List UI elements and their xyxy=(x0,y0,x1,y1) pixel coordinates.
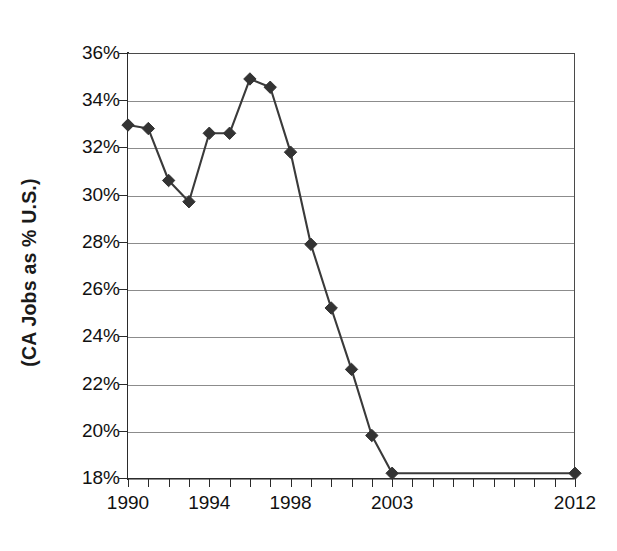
x-axis-tick xyxy=(534,478,535,487)
y-axis-tick xyxy=(119,242,128,243)
x-axis-tick xyxy=(473,478,474,487)
x-axis-tick xyxy=(372,478,373,487)
x-axis-tick-label: 2003 xyxy=(371,492,413,514)
y-axis-tick-label: 36% xyxy=(82,42,120,64)
y-axis-tick-label: 30% xyxy=(82,184,120,206)
x-axis-tick xyxy=(453,478,454,487)
y-axis-tick xyxy=(119,289,128,290)
x-axis-tick-label: 1990 xyxy=(107,492,149,514)
x-axis-tick xyxy=(331,478,332,487)
plot-area xyxy=(128,53,575,478)
gridline xyxy=(128,101,574,102)
y-axis-tick-label: 20% xyxy=(82,420,120,442)
x-axis-tick xyxy=(514,478,515,487)
y-axis-tick xyxy=(119,384,128,385)
x-axis-tick xyxy=(575,478,576,487)
x-axis-tick xyxy=(291,478,292,487)
x-axis-tick xyxy=(148,478,149,487)
y-axis-tick xyxy=(119,147,128,148)
y-axis-tick-label: 18% xyxy=(82,467,120,489)
x-axis-tick xyxy=(270,478,271,487)
y-axis-tick-label: 34% xyxy=(82,89,120,111)
x-axis-tick xyxy=(412,478,413,487)
y-axis-tick-label: 24% xyxy=(82,325,120,347)
y-axis-tick-label-group: 18%20%22%24%26%28%30%32%34%36% xyxy=(60,0,120,551)
y-axis-tick xyxy=(119,431,128,432)
x-axis-tick xyxy=(209,478,210,487)
y-axis-tick xyxy=(119,478,128,479)
x-axis-tick xyxy=(392,478,393,487)
y-axis-tick xyxy=(119,336,128,337)
y-axis-tick-label: 26% xyxy=(82,278,120,300)
x-axis-tick xyxy=(230,478,231,487)
y-axis-tick-label: 32% xyxy=(82,136,120,158)
gridline xyxy=(128,243,574,244)
x-axis-tick-label: 2012 xyxy=(554,492,596,514)
gridline xyxy=(128,385,574,386)
x-axis-tick-label: 1998 xyxy=(269,492,311,514)
y-axis-tick xyxy=(119,195,128,196)
x-axis-tick xyxy=(189,478,190,487)
chart-page: (CA Jobs as % U.S.) 18%20%22%24%26%28%30… xyxy=(0,0,617,551)
x-axis-tick xyxy=(433,478,434,487)
x-axis-tick xyxy=(128,478,129,487)
y-axis-tick xyxy=(119,53,128,54)
x-axis-tick xyxy=(311,478,312,487)
x-axis-tick xyxy=(352,478,353,487)
gridline xyxy=(128,290,574,291)
gridline xyxy=(128,432,574,433)
y-axis-tick-label: 22% xyxy=(82,373,120,395)
x-axis-tick xyxy=(494,478,495,487)
y-axis-tick xyxy=(119,100,128,101)
gridline xyxy=(128,148,574,149)
x-axis-tick xyxy=(250,478,251,487)
y-axis-title: (CA Jobs as % U.S.) xyxy=(0,0,58,551)
x-axis-tick-label: 1994 xyxy=(188,492,230,514)
x-axis-tick xyxy=(555,478,556,487)
x-axis-tick xyxy=(169,478,170,487)
gridline xyxy=(128,337,574,338)
gridline xyxy=(128,196,574,197)
y-axis-tick-label: 28% xyxy=(82,231,120,253)
